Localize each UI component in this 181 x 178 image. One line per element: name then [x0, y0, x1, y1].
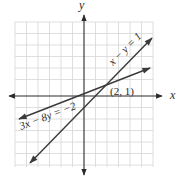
y-axis-label: y — [78, 0, 85, 12]
coordinate-graph: y x x − y = 1 3x − 8y = −2 (2, 1) — [0, 0, 181, 178]
intersection-label: (2, 1) — [110, 85, 134, 98]
x-axis-label: x — [169, 88, 176, 102]
line1-label: x − y = 1 — [105, 30, 143, 68]
